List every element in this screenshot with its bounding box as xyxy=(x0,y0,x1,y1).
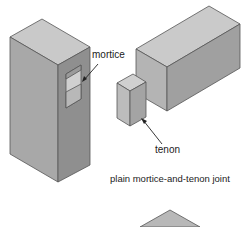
diagram-caption: plain mortice-and-tenon joint xyxy=(110,173,230,184)
post-side-face xyxy=(58,47,90,182)
joint-diagram xyxy=(0,0,244,227)
tenon-front-face xyxy=(117,83,130,126)
partial-block-top xyxy=(140,210,200,227)
tenon-rail xyxy=(117,6,240,126)
mortice-post xyxy=(10,19,90,182)
tenon-label: tenon xyxy=(155,144,180,155)
tenon-leader xyxy=(141,118,162,144)
mortice-label: mortice xyxy=(92,49,125,60)
